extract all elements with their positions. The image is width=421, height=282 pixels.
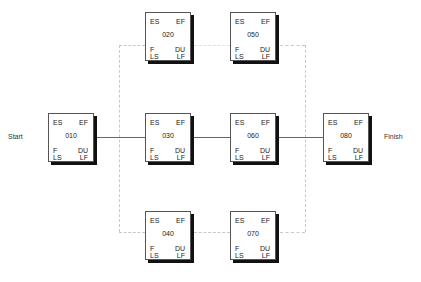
activity-node-050[interactable]: ES EF 050 F LS DU LF [230,12,276,61]
edge-050-080 [280,45,305,46]
lf-label: LF [262,53,270,60]
activity-node-030[interactable]: ES EF 030 F LS DU LF [145,113,191,162]
edge-010-030 [96,137,145,138]
edge-040-070 [194,232,230,233]
merge-connector-right [305,45,306,232]
activity-node-020[interactable]: ES EF 020 F LS DU LF [145,12,191,61]
activity-node-070[interactable]: ES EF 070 F LS DU LF [230,211,276,260]
ls-label: LS [150,154,159,161]
du-label: DU [260,46,270,53]
ls-label: LS [53,154,62,161]
du-label: DU [260,147,270,154]
es-label: ES [53,119,62,126]
du-label: DU [175,147,185,154]
es-label: ES [235,18,244,25]
ls-label: LS [235,252,244,259]
es-label: ES [150,119,159,126]
f-label: F [235,147,239,154]
finish-label: Finish [384,133,403,140]
es-label: ES [328,119,337,126]
network-diagram: Start Finish ES EF 010 F LS DU LF ES EF … [0,0,421,282]
activity-id: 080 [324,132,368,139]
ef-label: EF [261,18,270,25]
lf-label: LF [355,154,363,161]
activity-id: 010 [49,132,93,139]
ls-label: LS [150,252,159,259]
edge-010-020 [119,45,145,46]
lf-label: LF [80,154,88,161]
f-label: F [150,245,154,252]
ef-label: EF [261,217,270,224]
activity-id: 020 [146,31,190,38]
ef-label: EF [261,119,270,126]
activity-id: 040 [146,230,190,237]
es-label: ES [235,217,244,224]
branch-connector-left [119,45,120,232]
es-label: ES [150,18,159,25]
edge-030-060 [194,137,230,138]
ls-label: LS [235,154,244,161]
edge-020-050 [194,45,230,46]
f-label: F [328,147,332,154]
du-label: DU [78,147,88,154]
lf-label: LF [177,252,185,259]
lf-label: LF [177,53,185,60]
lf-label: LF [262,154,270,161]
f-label: F [150,147,154,154]
f-label: F [150,46,154,53]
du-label: DU [260,245,270,252]
lf-label: LF [177,154,185,161]
du-label: DU [175,245,185,252]
ef-label: EF [354,119,363,126]
lf-label: LF [262,252,270,259]
start-label: Start [8,133,23,140]
ef-label: EF [176,217,185,224]
edge-070-080 [280,232,305,233]
es-label: ES [150,217,159,224]
du-label: DU [175,46,185,53]
f-label: F [235,46,239,53]
ls-label: LS [328,154,337,161]
ls-label: LS [235,53,244,60]
activity-id: 030 [146,132,190,139]
du-label: DU [353,147,363,154]
ef-label: EF [176,18,185,25]
activity-id: 060 [231,132,275,139]
ef-label: EF [79,119,88,126]
activity-node-060[interactable]: ES EF 060 F LS DU LF [230,113,276,162]
ef-label: EF [176,119,185,126]
activity-id: 070 [231,230,275,237]
f-label: F [53,147,57,154]
activity-node-010[interactable]: ES EF 010 F LS DU LF [48,113,94,162]
ls-label: LS [150,53,159,60]
activity-node-040[interactable]: ES EF 040 F LS DU LF [145,211,191,260]
edge-010-040 [119,232,145,233]
f-label: F [235,245,239,252]
activity-id: 050 [231,31,275,38]
activity-node-080[interactable]: ES EF 080 F LS DU LF [323,113,369,162]
edge-060-080 [279,137,323,138]
es-label: ES [235,119,244,126]
